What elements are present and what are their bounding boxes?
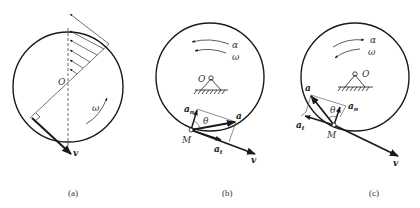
omega-label: ω (92, 103, 100, 113)
velocity-arrow (32, 118, 71, 154)
caption-b: (b) (222, 188, 233, 198)
panel-b: α ω O θ M a an at v (b) (156, 23, 264, 198)
caption-c: (c) (369, 188, 379, 198)
accel-label: a (305, 83, 311, 93)
panel-a: O ω v (a) (13, 14, 123, 198)
omega-label: ω (232, 52, 240, 62)
velocity-label: v (393, 158, 399, 168)
right-angle-mark (36, 113, 40, 120)
tangential-accel-label: at (296, 120, 305, 131)
caption-a: (a) (68, 188, 78, 198)
velocity-arrow (191, 130, 255, 154)
omega-rotation-arrow (195, 49, 226, 53)
center-label: O (362, 69, 370, 79)
theta-label: θ (203, 116, 209, 126)
point-m (332, 123, 336, 127)
center-label: O (58, 77, 66, 87)
velocity-label: v (73, 148, 79, 158)
panel-c: α ω O θ M a an at v (c) (296, 23, 409, 198)
point-label: M (181, 135, 192, 145)
alpha-label: α (370, 35, 376, 45)
point-m (189, 128, 193, 132)
rotating-disk-diagram: O ω v (a) α ω O θ M a an at v (b) (0, 0, 420, 208)
omega-label: ω (368, 47, 376, 57)
alpha-rotation-arrow (192, 40, 229, 44)
tangential-accel-label: at (214, 144, 223, 155)
normal-accel-label: an (348, 101, 358, 112)
theta-label: θ (330, 105, 336, 115)
center-label: O (198, 74, 206, 84)
point-label: M (326, 130, 337, 140)
velocity-label: v (251, 155, 257, 165)
normal-accel-label: an (184, 104, 194, 115)
omega-rotation-arrow (335, 49, 360, 58)
disk-outline (301, 23, 409, 131)
alpha-label: α (232, 40, 238, 50)
alpha-rotation-arrow (333, 40, 364, 47)
accel-label: a (236, 111, 242, 121)
